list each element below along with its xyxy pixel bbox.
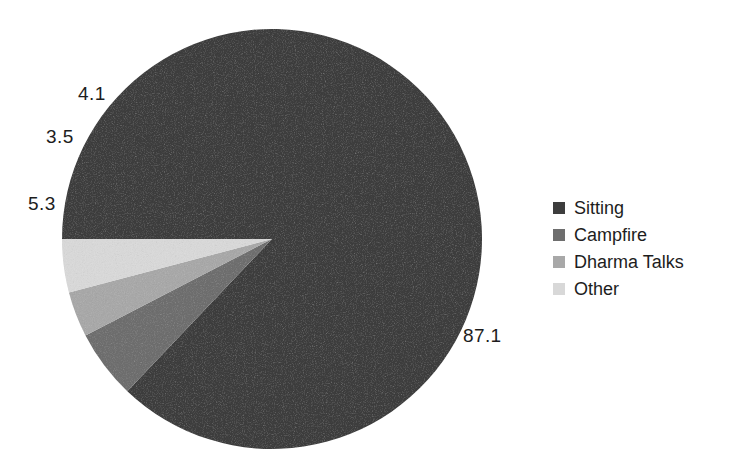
legend-swatch-icon-dharma-talks: [553, 256, 565, 268]
slice-value-label-campfire: 5.3: [28, 194, 56, 213]
pie-chart-figure: 4.1 3.5 5.3 87.1 Sitting Campfire Dharma…: [0, 0, 741, 461]
legend-item-campfire: Campfire: [553, 221, 738, 248]
legend-item-other: Other: [553, 275, 738, 302]
legend-item-dharma-talks: Dharma Talks: [553, 248, 738, 275]
legend-label-campfire: Campfire: [574, 226, 647, 244]
legend-label-dharma-talks: Dharma Talks: [574, 253, 684, 271]
legend-swatch-icon-campfire: [553, 229, 565, 241]
legend-label-other: Other: [574, 280, 619, 298]
legend-label-sitting: Sitting: [574, 199, 624, 217]
slice-value-label-dharma-talks: 3.5: [46, 127, 74, 146]
pie-slice-group: [62, 29, 482, 449]
legend-swatch-icon-other: [553, 283, 565, 295]
legend-item-sitting: Sitting: [553, 194, 738, 221]
slice-value-label-sitting: 87.1: [463, 326, 502, 345]
chart-legend: Sitting Campfire Dharma Talks Other: [553, 194, 738, 302]
slice-value-label-other: 4.1: [78, 84, 106, 103]
legend-swatch-icon-sitting: [553, 202, 565, 214]
